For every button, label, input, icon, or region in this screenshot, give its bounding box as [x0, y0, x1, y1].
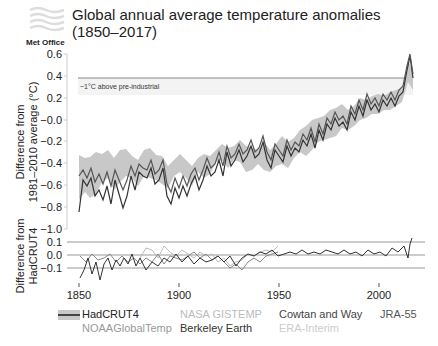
svg-text:HadCRUT4: HadCRUT4	[27, 228, 39, 285]
svg-text:1900: 1900	[167, 289, 191, 301]
legend-swatch-hadcrut4	[58, 310, 80, 320]
svg-text:0.0: 0.0	[47, 249, 62, 261]
svg-text:Difference from: Difference from	[14, 105, 26, 180]
x-axis-ticks: 1850 1900 1950 2000	[67, 289, 391, 301]
legend-berkeley: Berkeley Earth	[180, 322, 252, 334]
svg-text:−0.0: −0.0	[40, 114, 62, 126]
legend-hadcrut4: HadCRUT4	[82, 308, 139, 320]
main-ylabel: Difference from 1981–2010 average (°C)	[14, 82, 39, 203]
legend-era-interim: ERA-Interim	[279, 322, 339, 334]
svg-text:−0.8: −0.8	[40, 201, 62, 213]
svg-text:0.2: 0.2	[47, 92, 62, 104]
legend: HadCRUT4 NASA GISTEMP Cowtan and Way JRA…	[0, 304, 438, 344]
svg-text:0.1: 0.1	[47, 236, 62, 248]
legend-cowtan-way: Cowtan and Way	[279, 308, 362, 320]
diff-ylabel: Difference from HadCRUT4	[14, 219, 39, 294]
chart-area: 0.6 0.4 0.2 −0.0 −0.2 −0.4 −0.6 −0.8 −1.…	[0, 0, 438, 346]
diff-yticks: 0.1 0.0 −0.1	[40, 236, 62, 274]
svg-text:1950: 1950	[267, 289, 291, 301]
svg-text:2000: 2000	[367, 289, 391, 301]
svg-text:1981–2010 average (°C): 1981–2010 average (°C)	[27, 82, 39, 203]
svg-text:1850: 1850	[67, 289, 91, 301]
svg-text:−0.6: −0.6	[40, 179, 62, 191]
svg-text:0.4: 0.4	[47, 70, 62, 82]
legend-noaa: NOAAGlobalTemp	[82, 322, 172, 334]
pre-industrial-annotation: ~1°C above pre-industrial	[80, 83, 160, 91]
svg-text:Difference from: Difference from	[14, 219, 26, 294]
legend-jra55: JRA-55	[380, 308, 417, 320]
svg-text:0.6: 0.6	[47, 48, 62, 60]
main-yticks: 0.6 0.4 0.2 −0.0 −0.2 −0.4 −0.6 −0.8 −1.…	[40, 48, 62, 235]
svg-text:−0.4: −0.4	[40, 157, 62, 169]
svg-text:−0.1: −0.1	[40, 262, 62, 274]
svg-text:−0.2: −0.2	[40, 135, 62, 147]
legend-nasa-gistemp: NASA GISTEMP	[180, 308, 262, 320]
svg-text:−1.0: −1.0	[40, 223, 62, 235]
